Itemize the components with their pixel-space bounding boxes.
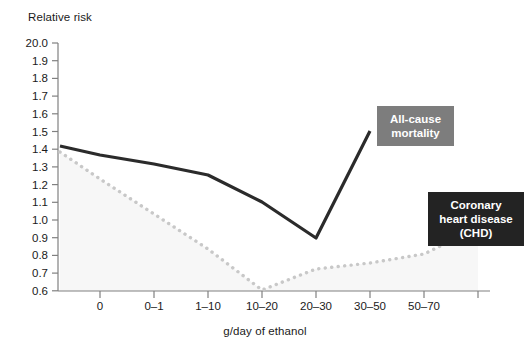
y-tick-label: 0.6 <box>4 285 48 297</box>
y-tick-label: 1.3 <box>4 161 48 173</box>
y-tick-label: 1.2 <box>4 179 48 191</box>
y-tick-label: 1.4 <box>4 143 48 155</box>
y-axis-title: Relative risk <box>28 11 92 23</box>
x-tick-label: 20–30 <box>300 300 332 312</box>
y-axis-ticks <box>52 43 58 291</box>
x-tick-label: 0 <box>97 300 103 312</box>
legend-all-cause-mortality: All-cause mortality <box>377 106 454 146</box>
y-tick-label: 1.8 <box>4 72 48 84</box>
y-tick-label: 1.6 <box>4 108 48 120</box>
x-axis-title: g/day of ethanol <box>0 325 530 337</box>
y-tick-label: 1.5 <box>4 126 48 138</box>
y-tick-label: 1.1 <box>4 196 48 208</box>
y-tick-label: 0.7 <box>4 267 48 279</box>
x-tick-label: 30–50 <box>354 300 386 312</box>
y-tick-label: 0.8 <box>4 249 48 261</box>
x-tick-label: 50–70 <box>408 300 440 312</box>
y-tick-label: 20.0 <box>4 37 48 49</box>
chd-area-fill <box>60 152 478 291</box>
chart-figure: Relative risk g/day of ethanol 20.0 1.9 … <box>0 0 530 359</box>
y-tick-label: 1.0 <box>4 214 48 226</box>
legend-coronary-heart-disease: Coronary heart disease (CHD) <box>428 192 524 246</box>
y-tick-label: 0.9 <box>4 232 48 244</box>
x-tick-label: 10–20 <box>246 300 278 312</box>
x-axis-ticks <box>100 291 478 298</box>
x-tick-label: 1–10 <box>195 300 221 312</box>
x-tick-label: 0–1 <box>144 300 163 312</box>
y-tick-label: 1.9 <box>4 55 48 67</box>
y-tick-label: 1.7 <box>4 90 48 102</box>
